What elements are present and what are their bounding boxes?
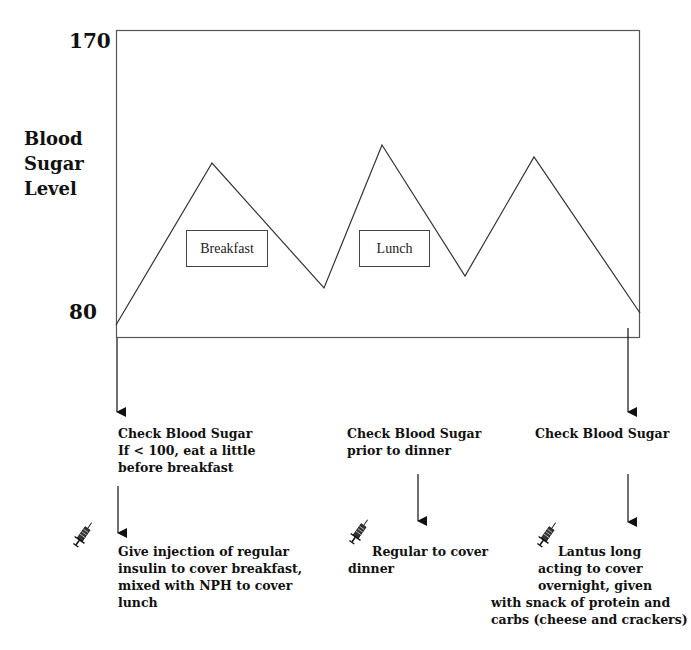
dinner-injection-note-line1: Regular to cover <box>372 543 488 560</box>
bedtime-check-note: Check Blood Sugar <box>535 425 669 442</box>
chart-frame <box>117 31 640 338</box>
syringe-icon <box>535 520 559 550</box>
syringe-icon <box>347 517 371 547</box>
dinner-injection-note-rest: dinner <box>348 560 394 577</box>
bedtime-injection-note-rest: acting to cover overnight, given <box>538 560 652 594</box>
morning-injection-note: Give injection of regular insulin to cov… <box>118 543 302 611</box>
bedtime-injection-note-line1: Lantus long <box>558 543 641 560</box>
morning-check-note: Check Blood Sugar If < 100, eat a little… <box>118 425 256 476</box>
dinner-check-note: Check Blood Sugar prior to dinner <box>347 425 481 459</box>
lunch-label: Lunch <box>359 230 430 267</box>
syringe-icon <box>71 520 95 550</box>
breakfast-label: Breakfast <box>186 230 268 267</box>
bedtime-injection-note-tail: with snack of protein and carbs (cheese … <box>491 594 688 628</box>
